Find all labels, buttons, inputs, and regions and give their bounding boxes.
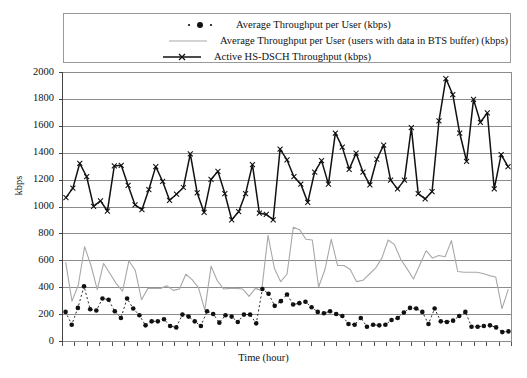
y-axis-tick-label: 200: [12, 308, 54, 319]
y-axis-label: kbps: [13, 156, 24, 216]
gridlines-group: [63, 73, 512, 342]
y-axis-tick-label: 2000: [12, 66, 54, 77]
legend-label: Active HS-DSCH Throughput (kbps): [214, 49, 371, 64]
y-axis-tick-label: 1600: [12, 119, 54, 130]
y-axis-tick-label: 1800: [12, 92, 54, 103]
series-average-throughput-user: [63, 284, 510, 334]
y-axis-tick-label: 400: [12, 281, 54, 292]
x-axis-label: Time (hour): [0, 352, 527, 363]
series-active-hs-dsch: [63, 76, 510, 222]
y-tick-marks-group: [59, 73, 63, 342]
legend-item-average-throughput-user: Average Throughput per User (kbps): [63, 17, 511, 32]
y-axis-tick-label: 800: [12, 227, 54, 238]
chart-figure: Average Throughput per User (kbps) Avera…: [0, 0, 527, 378]
legend-item-average-throughput-buffer: Average Throughput per User (users with …: [63, 33, 511, 48]
legend-label: Average Throughput per User (kbps): [236, 17, 391, 32]
legend-label: Average Throughput per User (users with …: [220, 33, 508, 48]
black-x-line-sample-icon: [161, 51, 207, 63]
gray-line-sample-icon: [167, 35, 213, 47]
y-axis-tick-label: 600: [12, 254, 54, 265]
series-average-throughput-buffer: [66, 227, 509, 310]
dotted-marker-sample-icon: [183, 19, 229, 31]
y-axis-tick-label: 0: [12, 335, 54, 346]
x-tick-marks-group: [63, 342, 512, 347]
legend: Average Throughput per User (kbps) Avera…: [63, 13, 511, 63]
legend-item-active-hs-dsch: Active HS-DSCH Throughput (kbps): [63, 49, 511, 64]
